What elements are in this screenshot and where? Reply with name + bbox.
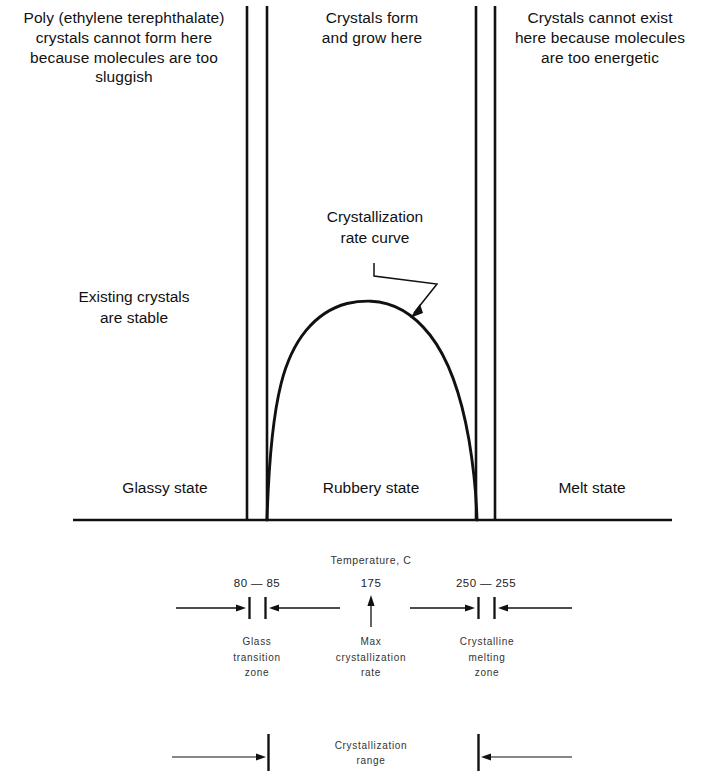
annotation-existing-crystals: Existing crystals are stable — [28, 287, 240, 329]
crystallization-diagram: Poly (ethylene terephthalate) crystals c… — [0, 0, 702, 782]
zone-label-crystallization-region: Crystals form and grow here — [272, 8, 472, 48]
state-label-rubbery: Rubbery state — [288, 478, 454, 498]
marker-caption-crystalline-melting: Crystalline melting zone — [422, 634, 552, 681]
max-rate-arrowhead — [367, 595, 374, 606]
axis-label-temperature: Temperature, C — [301, 554, 441, 567]
cm-right-arrowhead — [498, 604, 508, 611]
curve-label-leader — [374, 263, 437, 313]
zone-label-glassy-region: Poly (ethylene terephthalate) crystals c… — [4, 8, 244, 87]
curve-label-arrowhead — [410, 304, 423, 318]
gt-left-arrowhead — [236, 604, 246, 611]
zone-label-melt-region: Crystals cannot exist here because molec… — [500, 8, 700, 67]
marker-caption-glass-transition: Glass transition zone — [192, 634, 322, 681]
range-caption-crystallization: Crystallization range — [306, 738, 436, 768]
annotation-crystallization-rate-curve: Crystallization rate curve — [290, 207, 460, 249]
range-right-arrowhead — [481, 753, 491, 760]
cm-left-arrowhead — [465, 604, 475, 611]
state-label-melt: Melt state — [512, 478, 672, 498]
marker-value-glass-transition: 80 — 85 — [187, 576, 327, 591]
gt-right-arrowhead — [269, 604, 279, 611]
marker-value-max-crystallization: 175 — [316, 576, 426, 591]
marker-caption-max-crystallization: Max crystallization rate — [306, 634, 436, 681]
marker-value-crystalline-melting: 250 — 255 — [416, 576, 556, 591]
state-label-glassy: Glassy state — [80, 478, 250, 498]
range-left-arrowhead — [256, 753, 266, 760]
